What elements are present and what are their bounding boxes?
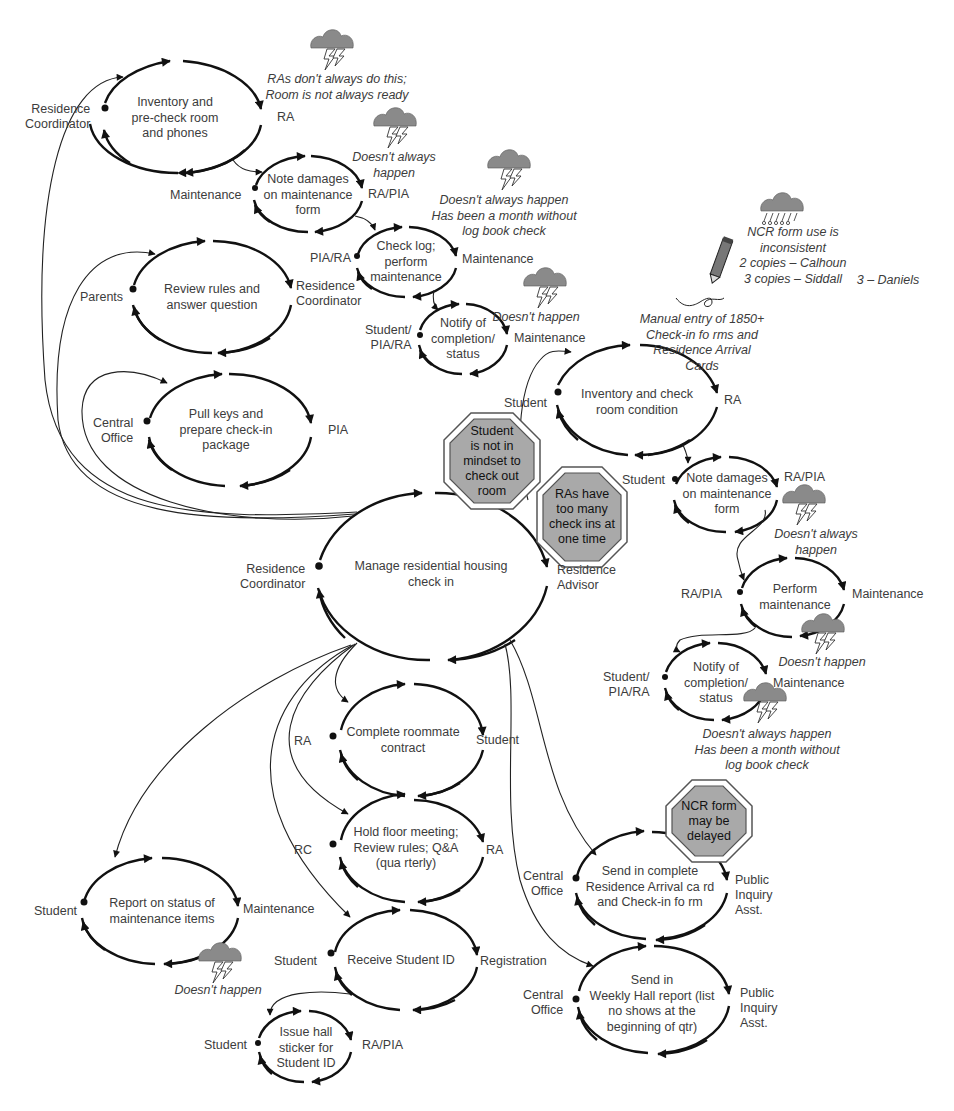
issue-note: NCR form use is inconsistent 2 copies – … — [713, 225, 874, 287]
storm-cloud-icon — [374, 108, 417, 148]
loop-text: Perform maintenance — [759, 582, 831, 613]
loop-text: Send in complete Residence Arrival ca rd… — [586, 864, 715, 911]
customer-label: Student — [274, 954, 317, 969]
storm-cloud-icon — [488, 150, 531, 190]
performer-label: Residence Coordinator — [296, 279, 361, 309]
customer-label: PIA/RA — [310, 251, 351, 266]
performer-label: Registration — [480, 954, 547, 969]
issue-note: Doesn't always happen — [774, 527, 858, 558]
performer-label: Maintenance — [773, 676, 845, 691]
issue-note: RAs don't always do this; Room is not al… — [265, 72, 408, 103]
loop-text: Note damages on maintenance form — [264, 172, 353, 219]
loop-text: Note damages on maintenance form — [683, 471, 772, 518]
performer-label: RA — [486, 843, 503, 858]
customer-label: Student — [34, 904, 77, 919]
loop-text: Pull keys and prepare check-in package — [179, 407, 272, 454]
customer-label: Student/ PIA/RA — [365, 323, 412, 353]
loop-text: Notify of completion/ status — [431, 316, 495, 363]
performer-label: RA/PIA — [368, 187, 409, 202]
issue-note: Doesn't happen — [778, 655, 865, 671]
issue-note: Manual entry of 1850+ Check-in fo rms an… — [640, 312, 765, 374]
stop-sign: NCR form may be delayed — [672, 786, 746, 856]
issue-note: Doesn't happen — [492, 310, 579, 326]
issue-note: Doesn't happen — [174, 983, 261, 999]
performer-label: Student — [476, 733, 519, 748]
rain-cloud-icon — [761, 193, 804, 225]
issue-note: Doesn't always happen Has been a month w… — [431, 193, 576, 240]
loop-text: Notify of completion/ status — [684, 660, 748, 707]
storm-cloud-icon — [783, 485, 826, 525]
storm-cloud-icon — [524, 268, 567, 308]
loop-text: Manage residential housing check in — [355, 559, 508, 590]
customer-label: Student — [504, 396, 547, 411]
performer-label: RA/PIA — [362, 1038, 403, 1053]
customer-label: Student/ PIA/RA — [603, 670, 650, 700]
loop-text: Review rules and answer question — [164, 282, 260, 313]
performer-label: RA — [277, 110, 294, 125]
customer-label: Central Office — [523, 988, 563, 1018]
loop-text: Send in Weekly Hall report (list no show… — [590, 973, 715, 1035]
customer-label: Residence Coordinator — [240, 562, 305, 592]
issue-note: Doesn't always happen Has been a month w… — [694, 727, 839, 774]
performer-label: Public Inquiry Asst. — [735, 873, 773, 918]
stop-sign-text: Student is not in mindset to check out r… — [450, 419, 534, 503]
customer-label: Student — [622, 473, 665, 488]
customer-label: RC — [294, 843, 312, 858]
loop-text: Report on status of maintenance items — [109, 896, 215, 927]
loop-text: Inventory and check room condition — [581, 387, 693, 418]
customer-label: Maintenance — [170, 188, 242, 203]
loop-text: Issue hall sticker for Student ID — [276, 1025, 335, 1072]
stop-sign: Student is not in mindset to check out r… — [450, 419, 534, 503]
loop-text: Complete roommate contract — [346, 725, 459, 756]
customer-label: Parents — [80, 290, 123, 305]
stop-sign-text: RAs have too many check ins at one time — [543, 473, 621, 561]
storm-cloud-icon — [311, 30, 354, 70]
performer-label: Residence Advisor — [557, 563, 616, 593]
customer-label: Central Office — [523, 869, 563, 899]
performer-label: Public Inquiry Asst. — [740, 986, 778, 1031]
stop-sign-text: NCR form may be delayed — [672, 786, 746, 856]
stop-sign: RAs have too many check ins at one time — [543, 473, 621, 561]
performer-label: Maintenance — [243, 902, 315, 917]
loop-text: Check log; perform maintenance — [370, 239, 442, 286]
loop-text: Receive Student ID — [347, 953, 455, 969]
customer-label: Central Office — [93, 416, 133, 446]
customer-label: RA/PIA — [681, 587, 722, 602]
customer-label: Residence Coordinator — [25, 102, 90, 132]
performer-label: RA/PIA — [784, 470, 825, 485]
storm-cloud-icon — [199, 943, 242, 983]
performer-label: PIA — [328, 423, 348, 438]
issue-note: 3 – Daniels — [857, 273, 920, 289]
customer-label: Student — [204, 1038, 247, 1053]
issue-note: Doesn't always happen — [352, 150, 436, 181]
loop-text: Hold floor meeting; Review rules; Q&A (q… — [354, 825, 459, 872]
performer-label: RA — [724, 393, 741, 408]
performer-label: Maintenance — [852, 587, 924, 602]
performer-label: Maintenance — [514, 331, 586, 346]
loop-text: Inventory and pre-check room and phones — [132, 95, 219, 142]
performer-label: Maintenance — [462, 252, 534, 267]
customer-label: RA — [294, 734, 311, 749]
